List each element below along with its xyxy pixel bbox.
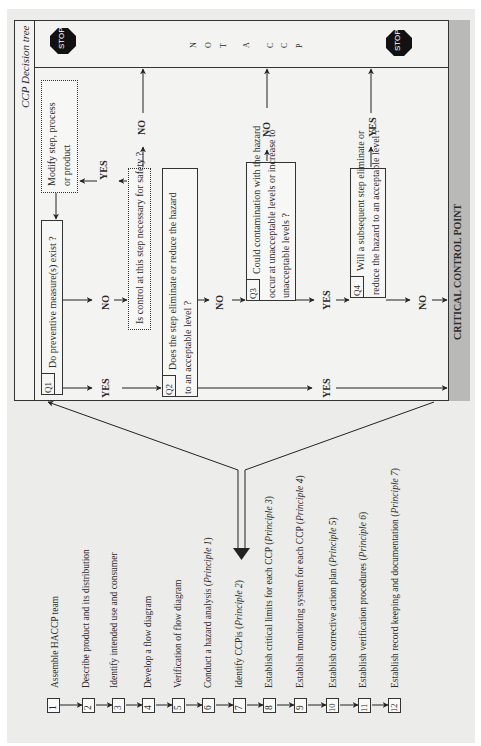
- answer-no: NO: [137, 120, 147, 135]
- step-text-main: Establish critical limits for each CCP (: [264, 542, 274, 688]
- letter: P: [296, 44, 308, 48]
- step-text: Develop a flow diagram: [144, 596, 154, 688]
- step-number: 9: [296, 705, 306, 710]
- step-text-close: ): [328, 517, 338, 520]
- step-text: Establish critical limits for each CCP (…: [265, 496, 275, 688]
- step-principle: Principle 6: [358, 515, 368, 557]
- answer-yes: YES: [368, 118, 378, 137]
- step-number: 10: [328, 704, 337, 713]
- step-text-main: Identify CCPis (: [234, 626, 244, 688]
- q3-tag: Q3: [249, 288, 258, 299]
- critical-control-point-label: CRITICAL CONTROL POINT: [453, 204, 463, 340]
- step-text-main: Establish monitoring system for each CCP…: [295, 521, 305, 688]
- q4-tag: Q4: [353, 285, 362, 296]
- step-text-main: Establish corrective action plan (: [328, 563, 338, 688]
- step-text: Establish record keeping and documentati…: [391, 468, 401, 688]
- letter: O: [205, 42, 217, 48]
- not-a-ccp-label: N O T A C C P: [190, 40, 300, 52]
- q3-text-line-3: unacceptable levels ?: [281, 213, 291, 298]
- modify-box-line-1: Modify step, process: [47, 102, 57, 186]
- step-text-close: ): [295, 475, 305, 478]
- step-text-close: ): [358, 512, 368, 515]
- step-text-main: Conduct a hazard analysis (: [203, 583, 213, 688]
- stop-label: STOP: [394, 29, 402, 51]
- step-text-close: ): [234, 580, 244, 583]
- step-text: Establish corrective action plan (Princi…: [329, 517, 339, 688]
- letter: N: [190, 42, 202, 48]
- answer-no: NO: [215, 295, 225, 310]
- letter: C: [267, 43, 279, 48]
- step-principle: Principle 7: [390, 471, 400, 513]
- step-text: Describe product and its distribution: [82, 549, 92, 688]
- answer-yes: YES: [322, 379, 332, 398]
- letter: C: [281, 43, 293, 48]
- step-principle: Principle 3: [264, 499, 274, 541]
- decision-tree-frame: [14, 20, 470, 401]
- step-number: 12: [390, 704, 399, 713]
- step-principle: Principle 4: [295, 479, 305, 521]
- answer-yes: YES: [322, 291, 332, 310]
- step-text: Establish monitoring system for each CCP…: [296, 475, 306, 688]
- step-number: 4: [144, 705, 154, 710]
- step-number: 8: [265, 705, 275, 710]
- answer-no: NO: [262, 122, 272, 137]
- step-principle: Principle 5: [328, 520, 338, 562]
- step-text: Identify intended use and consumer: [110, 552, 120, 688]
- step-text-main: Establish verification procedures (: [358, 557, 368, 688]
- letter: A: [243, 42, 255, 48]
- q3-text-line-2: occur at unacceptable levels or increase…: [267, 129, 277, 298]
- decision-tree-title: CCP Decision tree: [20, 26, 31, 109]
- step-text-main: Establish record keeping and documentati…: [390, 514, 400, 688]
- step-principle: Principle 1: [203, 541, 213, 583]
- q2-tag: Q2: [165, 384, 174, 395]
- answer-no: NO: [418, 295, 428, 310]
- q1-tag: Q1: [44, 382, 53, 393]
- answer-no: NO: [101, 295, 111, 310]
- letter: T: [220, 43, 232, 48]
- step-text: Verification of flow diagram: [174, 580, 184, 688]
- stop-label: STOP: [58, 27, 66, 49]
- modify-box-line-2: or product: [62, 145, 72, 186]
- step-text-close: ): [264, 496, 274, 499]
- q3-text-line-1: Could contamination with the hazard: [252, 126, 262, 274]
- answer-yes: YES: [99, 161, 109, 180]
- step-text-close: ): [390, 468, 400, 471]
- step-text-close: ): [203, 537, 213, 540]
- q2-text-line-1: Does the step eliminate or reduce the ha…: [168, 193, 178, 370]
- step-text: Identify CCPis (Principle 2): [235, 580, 245, 688]
- step-number: 11: [360, 704, 369, 712]
- step-principle: Principle 2: [234, 583, 244, 625]
- q1-text: Do preventive measure(s) exist ?: [48, 236, 58, 368]
- step-number: 7: [235, 705, 245, 710]
- control-question-text: Is control at this step necessary for sa…: [135, 152, 145, 324]
- q2-text-line-2: to an acceptable level ?: [183, 301, 193, 394]
- step-text: Establish verification procedures (Princ…: [359, 512, 369, 688]
- step-number: 3: [114, 705, 124, 710]
- step-number: 6: [204, 705, 214, 710]
- answer-yes: YES: [101, 379, 111, 398]
- step-number: 5: [174, 705, 184, 710]
- q4-text-line-2: reduce the hazard to an acceptable level…: [371, 129, 381, 295]
- q4-text-line-1: Will a subsequent step eliminate or: [356, 131, 366, 271]
- step-text: Assemble HACCP team: [51, 596, 61, 688]
- step-number: 1: [49, 705, 59, 710]
- step-text: Conduct a hazard analysis (Principle 1): [204, 537, 214, 688]
- step-number: 2: [84, 705, 94, 710]
